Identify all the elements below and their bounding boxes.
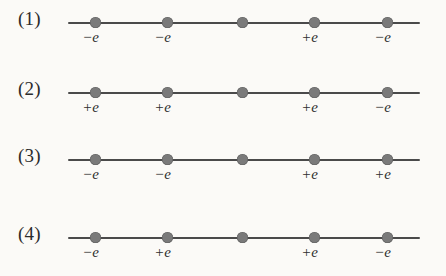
charge-dot <box>162 87 173 98</box>
charge-symbol: e <box>384 29 391 45</box>
charge-sign: + <box>155 99 163 115</box>
charge-dot <box>309 154 320 165</box>
charge-value-label: +e <box>353 167 413 182</box>
charge-row-1: (1)−e−e+e−e <box>0 0 446 56</box>
charge-sign: − <box>83 29 91 45</box>
charge-row-4: (4)−e+e+e−e <box>0 215 446 271</box>
charge-dot <box>309 232 320 243</box>
charge-dot <box>309 17 320 28</box>
charge-dot <box>382 17 393 28</box>
charge-value-label: −e <box>61 167 121 182</box>
charge-dot <box>90 17 101 28</box>
charge-sign: + <box>302 166 310 182</box>
charge-sign: − <box>375 29 383 45</box>
charge-symbol: e <box>92 99 99 115</box>
charge-dot <box>90 232 101 243</box>
charge-configuration-figure: (1)−e−e+e−e(2)+e+e+e−e(3)−e−e+e+e(4)−e+e… <box>0 0 446 276</box>
charge-sign: − <box>155 166 163 182</box>
charge-value-label: +e <box>280 245 340 260</box>
charge-value-label: +e <box>61 100 121 115</box>
charge-symbol: e <box>92 166 99 182</box>
charge-sign: − <box>83 166 91 182</box>
row-number-label: (2) <box>18 79 58 98</box>
charge-sign: − <box>83 244 91 260</box>
charge-value-label: +e <box>133 245 193 260</box>
charge-value-label: −e <box>353 30 413 45</box>
charge-value-label: −e <box>353 100 413 115</box>
charge-value-label: −e <box>353 245 413 260</box>
charge-sign: + <box>83 99 91 115</box>
charge-dot <box>162 17 173 28</box>
row-number-label: (1) <box>18 9 58 28</box>
charge-sign: + <box>302 99 310 115</box>
charge-dot <box>162 232 173 243</box>
charge-value-label: −e <box>61 30 121 45</box>
charge-symbol: e <box>384 99 391 115</box>
charge-value-label: +e <box>280 167 340 182</box>
charge-symbol: e <box>92 244 99 260</box>
charge-row-2: (2)+e+e+e−e <box>0 70 446 126</box>
charge-sign: − <box>375 244 383 260</box>
charge-symbol: e <box>164 29 171 45</box>
charge-value-label: −e <box>61 245 121 260</box>
charge-symbol: e <box>311 244 318 260</box>
charge-dot <box>237 154 248 165</box>
charge-row-3: (3)−e−e+e+e <box>0 137 446 193</box>
charge-value-label: +e <box>133 100 193 115</box>
charge-dot <box>309 87 320 98</box>
charge-symbol: e <box>164 244 171 260</box>
charge-dot <box>90 154 101 165</box>
charge-symbol: e <box>92 29 99 45</box>
charge-sign: + <box>375 166 383 182</box>
charge-dot <box>382 87 393 98</box>
charge-sign: + <box>302 29 310 45</box>
charge-symbol: e <box>311 166 318 182</box>
charge-symbol: e <box>311 99 318 115</box>
charge-dot <box>162 154 173 165</box>
charge-symbol: e <box>384 166 391 182</box>
charge-symbol: e <box>384 244 391 260</box>
charge-value-label: +e <box>280 100 340 115</box>
charge-sign: + <box>302 244 310 260</box>
charge-dot <box>382 232 393 243</box>
charge-sign: + <box>155 244 163 260</box>
charge-dot <box>237 87 248 98</box>
charge-dot <box>237 17 248 28</box>
charge-dot <box>90 87 101 98</box>
charge-symbol: e <box>164 166 171 182</box>
charge-symbol: e <box>311 29 318 45</box>
charge-dot <box>237 232 248 243</box>
charge-value-label: +e <box>280 30 340 45</box>
charge-symbol: e <box>164 99 171 115</box>
charge-sign: − <box>375 99 383 115</box>
charge-dot <box>382 154 393 165</box>
row-number-label: (4) <box>18 224 58 243</box>
charge-sign: − <box>155 29 163 45</box>
row-number-label: (3) <box>18 146 58 165</box>
charge-value-label: −e <box>133 167 193 182</box>
charge-value-label: −e <box>133 30 193 45</box>
